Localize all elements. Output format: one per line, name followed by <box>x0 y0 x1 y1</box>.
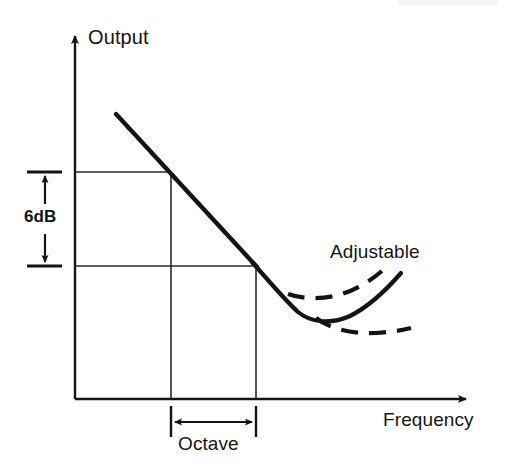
main-response-curve <box>252 262 401 321</box>
adjustable-upper-dashed-curve <box>288 270 383 298</box>
horizontal-dimension-label: Octave <box>178 434 239 453</box>
response-curve-diagram <box>0 0 505 475</box>
response-curve-group <box>116 114 401 321</box>
axis-group <box>75 36 466 399</box>
adjustable-curve-label: Adjustable <box>330 242 420 261</box>
y-axis-label: Output <box>88 27 149 47</box>
figure-canvas: Output Frequency 6dB Octave Adjustable <box>0 0 505 475</box>
slope-line-segment <box>116 114 257 267</box>
vertical-dimension-label: 6dB <box>24 208 56 225</box>
reference-line-group <box>75 172 259 399</box>
x-axis-label: Frequency <box>383 410 474 429</box>
